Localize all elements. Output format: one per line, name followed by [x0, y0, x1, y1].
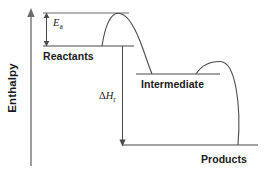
enthalpy-of-reaction-label: ΔHr — [99, 90, 116, 104]
enthalpy-of-reaction-measure-group: ΔHr — [99, 46, 126, 147]
energy-profile-diagram: Enthalpy Ea ΔHr — [0, 0, 271, 171]
y-axis-title: Enthalpy — [6, 63, 18, 113]
activation-energy-label: Ea — [52, 17, 63, 31]
energy-profile-svg: Enthalpy Ea ΔHr — [0, 0, 271, 171]
activation-energy-measure-group: Ea — [44, 13, 64, 47]
products-label: Products — [201, 153, 247, 165]
intermediate-label: Intermediate — [141, 78, 204, 90]
y-axis-group: Enthalpy — [6, 8, 35, 166]
activation-energy-subscript: a — [59, 22, 63, 31]
enthalpy-of-reaction-subscript: r — [113, 95, 116, 104]
level-labels-group: Reactants Intermediate Products — [43, 50, 247, 165]
reactants-label: Reactants — [43, 50, 94, 62]
first-transition-state-hump — [102, 13, 152, 74]
y-axis-arrow-icon — [27, 8, 34, 17]
